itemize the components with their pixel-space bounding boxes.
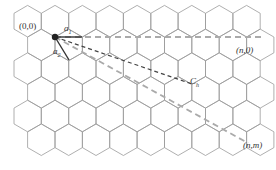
hex-cell [233,53,260,85]
hex-cell [55,77,82,109]
hex-cell [41,100,68,132]
hex-cell [96,5,123,37]
origin-point-icon [52,34,58,40]
hex-cell [69,5,96,37]
hex-cell [192,29,219,61]
hex-cell [110,29,137,61]
hex-cell [69,100,96,132]
hex-cell [192,124,219,156]
hex-cell [151,53,178,85]
hex-cell [151,100,178,132]
hex-cell [110,77,137,109]
hex-cell [55,124,82,156]
hex-cell [82,77,109,109]
nm-label: (n,m) [243,140,262,150]
chiral-vector-label: Ch [190,76,199,88]
hex-cell [178,100,205,132]
hex-cell [206,100,233,132]
n0-label: (n,0) [236,45,253,55]
hex-cell [28,77,55,109]
hex-cell [247,77,274,109]
hex-cell [28,124,55,156]
hex-cell [14,100,41,132]
hex-cell [233,5,260,37]
hex-cell [110,124,137,156]
hex-cell [123,100,150,132]
hex-cell [206,53,233,85]
hex-cells [14,5,274,155]
hex-cell [206,5,233,37]
hex-cell [233,100,260,132]
hex-cell [219,77,246,109]
hex-cell [151,5,178,37]
hex-cell [82,124,109,156]
hex-cell [14,53,41,85]
hex-cell [137,124,164,156]
hex-cell [165,29,192,61]
honeycomb-lattice [0,0,276,170]
hex-cell [96,100,123,132]
a1-label: a1 [64,23,72,35]
graphene-lattice-diagram: (0,0) a1 a2 (n,0) Ch (n,m) [0,0,276,170]
a2-label: a2 [53,46,61,58]
hex-cell [96,53,123,85]
hex-cell [123,53,150,85]
hex-cell [137,77,164,109]
hex-cell [28,29,55,61]
hex-cell [123,5,150,37]
origin-label: (0,0) [19,21,36,31]
hex-cell [82,29,109,61]
hex-cell [165,77,192,109]
hex-cell [137,29,164,61]
hex-cell [178,5,205,37]
hex-cell [165,124,192,156]
